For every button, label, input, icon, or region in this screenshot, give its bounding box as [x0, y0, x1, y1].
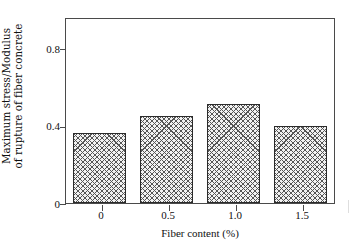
bar-1.5[interactable]: [274, 126, 327, 204]
y-tick-mark-0: [60, 204, 66, 205]
x-axis-title: Fiber content (%): [65, 227, 335, 239]
bar-slot-1.0: [207, 19, 260, 203]
bar-1.0[interactable]: [207, 104, 260, 203]
y-axis-title-line-1: Maximum stress/Modulus: [0, 28, 12, 164]
x-tick-label-0.5: 0.5: [146, 210, 190, 221]
bar-0.5[interactable]: [140, 116, 193, 203]
y-axis-title-line-2: of rupture of fiber concrete: [12, 24, 24, 169]
x-tick-label-0: 0: [79, 210, 123, 221]
x-tick-label-1.0: 1.0: [213, 210, 257, 221]
bar-0[interactable]: [73, 133, 126, 203]
y-tick-label-0.4: 0.4: [46, 121, 60, 132]
bar-chart-figure: Maximum stress/Modulus of rupture of fib…: [0, 0, 362, 245]
bar-slot-0: [73, 19, 126, 203]
plot-area: [65, 18, 335, 204]
bar-slot-0.5: [140, 19, 193, 203]
bar-slot-1.5: [274, 19, 327, 203]
x-tick-label-1.5: 1.5: [280, 210, 324, 221]
bar-series: [66, 19, 334, 203]
y-tick-label-0.8: 0.8: [46, 44, 60, 55]
scan-artifact: [348, 200, 349, 213]
y-axis-title: Maximum stress/Modulus of rupture of fib…: [0, 0, 29, 194]
